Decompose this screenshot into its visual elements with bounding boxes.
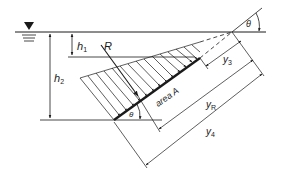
hydrostatic-diagram: h1 h2 θ R area A θ y [0,0,291,178]
y3-label: y3 [222,54,232,66]
ext-line-plate-top [200,58,208,69]
theta-top-arc [256,13,259,31]
h2-label: h2 [54,72,64,85]
theta-bottom-label: θ [129,110,134,119]
theta-top-label: θ [246,19,251,29]
h1-label: h1 [77,40,87,53]
ext-line-surface [232,32,264,76]
dashed-extension-top [200,32,232,42]
resultant-label: R [104,40,112,52]
pressure-distribution [80,42,200,120]
yR-label: yR [205,99,216,111]
ext-line-plate-bottom [114,122,147,168]
inclined-plate [114,58,200,120]
resultant-force-arrow [101,45,138,96]
y4-dimension-arrow [146,74,262,165]
theta-bottom-arc [137,104,140,119]
y4-label: y4 [205,126,215,138]
